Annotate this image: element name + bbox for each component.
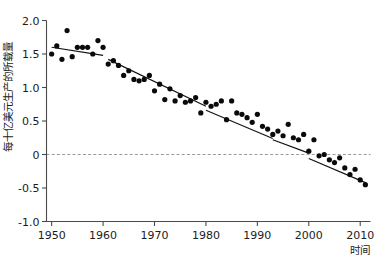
y-tick-label: 0.5 [22,115,40,128]
data-point [296,137,301,142]
data-point [316,153,321,158]
x-tick-label: 1970 [141,229,169,242]
data-point [59,57,64,62]
data-point [270,132,275,137]
data-point [332,160,337,165]
y-axis-ticks: -1.0-0.500.51.01.52.0 [18,15,46,229]
data-point [147,73,152,78]
data-point [301,132,306,137]
data-point [121,73,126,78]
data-point [347,172,352,177]
data-point [188,98,193,103]
data-point [260,124,265,129]
data-point [275,128,280,133]
data-point [131,77,136,82]
data-point [80,45,85,50]
y-tick-label: 1.0 [22,82,40,95]
data-point [250,120,255,125]
x-tick-label: 2000 [295,229,323,242]
data-point [64,28,69,33]
y-tick-label: 0 [33,149,40,162]
data-point [116,63,121,68]
data-point [265,126,270,131]
x-tick-label: 1980 [192,229,220,242]
y-tick-label: -1.0 [18,216,39,229]
data-point [193,95,198,100]
x-axis-title: 时间 [350,244,370,256]
data-point [219,98,224,103]
data-point [229,98,234,103]
data-point [136,78,141,83]
data-point [358,177,363,182]
data-point [126,68,131,73]
data-point [280,133,285,138]
data-point [255,112,260,117]
data-point [322,152,327,157]
trend-line [52,47,366,182]
data-point [327,157,332,162]
x-tick-label: 1950 [38,229,66,242]
y-tick-label: -0.5 [18,182,39,195]
data-point [183,100,188,105]
data-point [337,155,342,160]
axis-spines [47,21,371,222]
data-point [106,61,111,66]
data-point [198,110,203,115]
x-tick-label: 1990 [243,229,271,242]
y-axis-title-text: 每十亿美元生产的所载量 [2,41,14,152]
data-point [363,182,368,187]
data-point [244,115,249,120]
data-point [342,165,347,170]
chart-axes [47,21,371,222]
x-axis-ticks: 1950196019701980199020002010 [38,222,375,242]
data-point [178,93,183,98]
data-point [162,97,167,102]
data-point [311,137,316,142]
chart-container: 1950196019701980199020002010 -1.0-0.500.… [0,0,382,261]
data-point [234,110,239,115]
data-point [157,82,162,87]
data-point [111,58,116,63]
data-point [85,45,90,50]
y-axis-title: 每十亿美元生产的所载量 [2,41,14,152]
data-point [54,43,59,48]
data-point [172,98,177,103]
data-point [152,88,157,93]
data-point [203,100,208,105]
trend-segment [273,140,309,153]
data-point [214,102,219,107]
x-axis-title-text: 时间 [350,244,370,256]
data-point [208,104,213,109]
data-point [291,135,296,140]
data-point [239,112,244,117]
data-point [142,77,147,82]
data-point [49,51,54,56]
y-tick-label: 2.0 [22,15,40,28]
data-point [90,51,95,56]
x-tick-label: 2010 [346,229,374,242]
data-point [70,54,75,59]
data-point [167,86,172,91]
data-point [306,149,311,154]
scatter-chart: 1950196019701980199020002010 -1.0-0.500.… [0,0,382,261]
data-point [286,122,291,127]
x-tick-label: 1960 [89,229,117,242]
y-tick-label: 1.5 [22,48,40,61]
data-point [100,45,105,50]
data-point [352,167,357,172]
data-point [95,38,100,43]
data-point [224,117,229,122]
data-point [75,45,80,50]
